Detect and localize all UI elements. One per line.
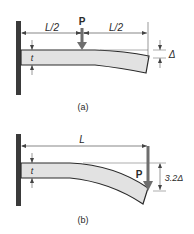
fixed-wall-a [16,21,21,95]
deflection-label-b: 3.2Δ [165,173,184,183]
beam-b [21,163,148,204]
deflection-dimension-a [153,40,166,68]
load-arrow-a [77,28,87,50]
figure-a: L/2 L/2 P t Δ (a) [16,16,176,112]
caption-b: (b) [78,215,89,225]
beam-a [21,50,149,73]
fixed-wall-b [16,134,21,206]
load-label-a: P [79,16,86,27]
load-label-b: P [136,169,143,180]
figure-b: L P t 3.2Δ (b) [16,134,183,225]
load-arrow-b [143,146,153,191]
caption-a: (a) [78,102,89,112]
deflection-label-a: Δ [168,49,176,60]
span-label-b: L [79,134,85,145]
span-right-label: L/2 [109,22,123,33]
cantilever-diagram: L/2 L/2 P t Δ (a) L [0,0,194,234]
span-left-label: L/2 [45,22,59,33]
